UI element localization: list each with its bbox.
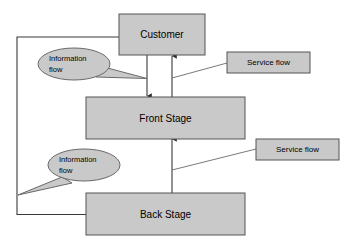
node-front-stage[interactable]: Front Stage: [86, 97, 245, 139]
callout-information-flow-bottom-line2: flow: [59, 166, 73, 175]
node-back-stage-label: Back Stage: [140, 209, 192, 220]
callout-information-flow-bottom-line1: Information: [59, 155, 97, 164]
tag-service-flow-top[interactable]: Service flow: [227, 52, 310, 73]
diagram-canvas: Customer Front Stage Back Stage Service …: [0, 0, 344, 247]
node-back-stage[interactable]: Back Stage: [86, 193, 245, 235]
callout-information-flow-bottom[interactable]: Information flow: [18, 149, 120, 195]
tag-service-flow-bottom-label: Service flow: [276, 145, 319, 154]
node-customer[interactable]: Customer: [119, 14, 205, 55]
callout-information-flow-top-line2: flow: [49, 65, 63, 74]
diagram-svg: Customer Front Stage Back Stage Service …: [0, 0, 344, 247]
tag-service-flow-bottom[interactable]: Service flow: [256, 139, 339, 160]
callout-tail-bottom: [18, 177, 72, 195]
node-customer-label: Customer: [140, 29, 184, 40]
tag-service-flow-top-label: Service flow: [247, 58, 290, 67]
node-front-stage-label: Front Stage: [139, 113, 192, 124]
leader-line-service-flow-bottom: [172, 149, 256, 170]
callout-information-flow-top-line1: Information: [49, 54, 87, 63]
leader-line-service-flow-top: [172, 63, 227, 78]
